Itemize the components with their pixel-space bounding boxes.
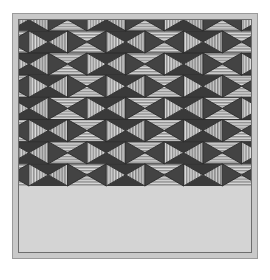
pattern-frame <box>12 13 258 259</box>
artwork-canvas: Tessellated Triangle Pattern <box>0 0 270 280</box>
tiling-group <box>19 20 251 252</box>
artwork-title: Tessellated Triangle Pattern <box>0 21 1 22</box>
pattern-field <box>18 19 252 253</box>
pattern-svg <box>19 20 251 252</box>
